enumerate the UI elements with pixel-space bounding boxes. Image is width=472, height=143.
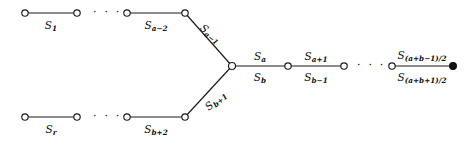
label-s-r: Sr (45, 124, 56, 135)
node-bottom-left-start (22, 114, 28, 120)
label-s-b-plus-2-sub: b+2 (152, 128, 168, 137)
label-s-a-plus-1: Sa+1 (304, 51, 327, 62)
label-s-ab-minus: S(a+b−1)/2 (397, 50, 446, 61)
label-s-a-plus-1-sub: a+1 (312, 55, 328, 64)
label-s-b-plus-2: Sb+2 (144, 124, 168, 135)
node-right-second (341, 63, 347, 69)
label-s-a-minus-2: Sa−2 (144, 20, 167, 31)
node-right-first (285, 63, 291, 69)
label-s-b-minus-1-sub: b−1 (312, 76, 328, 85)
label-s-r-sub: r (53, 128, 57, 137)
nodes-group (22, 10, 457, 120)
ellipsis-bottom: · · · (93, 111, 121, 122)
node-bottom-bp2-end (182, 114, 188, 120)
ellipsis-top: · · · (93, 7, 121, 18)
label-s-ab-plus: S(a+b+1)/2 (397, 72, 446, 83)
label-s-a: Sa (254, 51, 266, 62)
label-s-ab-minus-sub: (a+b−1)/2 (405, 54, 447, 63)
node-top-am2-start (124, 10, 130, 16)
node-bottom-left-end (74, 114, 80, 120)
label-s-b: Sb (254, 72, 266, 83)
node-junction (229, 63, 236, 70)
label-s-1-sub: 1 (52, 24, 57, 33)
node-top-left-start (22, 10, 28, 16)
label-s-1: S1 (45, 20, 57, 31)
node-right-tail-start (389, 63, 395, 69)
label-s-b-minus-1: Sb−1 (304, 72, 328, 83)
label-s-ab-plus-sub: (a+b+1)/2 (405, 76, 447, 85)
ellipsis-right: · · · (357, 60, 385, 71)
node-bottom-bp2-start (124, 114, 130, 120)
label-s-b-sub: b (261, 76, 266, 85)
label-s-a-minus-2-sub: a−2 (152, 24, 168, 33)
node-right-terminal (450, 63, 457, 70)
graph-figure: S1 Sa−2 Sa−1 Sr Sb+2 Sb+1 Sa Sb Sa+1 Sb−… (0, 0, 472, 143)
label-s-a-sub: a (261, 55, 266, 64)
node-top-left-end (74, 10, 80, 16)
node-top-am2-end (182, 10, 188, 16)
